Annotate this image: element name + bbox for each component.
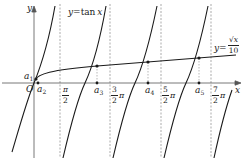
tan-branch-2 [113, 6, 157, 158]
tan-branch-3 [164, 6, 208, 158]
label-a2: a2 [37, 85, 46, 95]
label-a3: a3 [94, 86, 103, 96]
point-a3-top [95, 64, 98, 67]
point-subscript: 5 [200, 89, 204, 96]
y-axis-arrow-icon [32, 6, 36, 12]
sqrt-curve [35, 55, 236, 80]
point-a5-axis [198, 82, 201, 85]
tan-label-prefix: y= [68, 7, 81, 17]
tick-denominator: 2 [62, 96, 69, 105]
sqrt-label-denominator: 10 [228, 46, 239, 55]
sqrt-label-fraction: √x 10 [228, 36, 239, 54]
tick-numerator: 5 [162, 86, 169, 96]
tan-label-var: x [97, 7, 102, 17]
x-axis-label: x [235, 86, 240, 95]
point-a1 [34, 77, 37, 80]
tick-5pi-half: 5 2 [162, 86, 169, 104]
point-a4-top [146, 60, 149, 63]
point-a5-top [197, 56, 200, 59]
origin-label: O [26, 85, 33, 94]
tick-numerator: 3 [111, 86, 118, 96]
tick-7pi-suffix: π [220, 92, 225, 100]
tick-denominator: 2 [162, 96, 169, 105]
label-a5: a5 [195, 86, 204, 96]
label-a4: a4 [145, 86, 154, 96]
diagram-canvas [0, 0, 244, 160]
tan-label-func: tan [81, 7, 96, 17]
tan-branch-1 [63, 6, 106, 158]
point-subscript: 4 [150, 89, 154, 96]
sqrt-label-numerator: √x [228, 36, 239, 46]
tan-sqrt-intersection-diagram: y x O y=tan x y= √x 10 π 2 3 2 π 5 2 π 7… [0, 0, 244, 160]
y-axis-label: y [27, 4, 32, 13]
tick-3pi-half: 3 2 [111, 86, 118, 104]
tick-numerator: 7 [212, 86, 219, 96]
tan-branch-0 [12, 6, 55, 152]
tick-7pi-half: 7 2 [212, 86, 219, 104]
tan-curve-label: y=tan x [68, 8, 102, 17]
point-subscript: 3 [99, 89, 103, 96]
point-a3-axis [96, 82, 99, 85]
point-a4-axis [147, 82, 150, 85]
tick-numerator: π [62, 86, 69, 96]
tick-denominator: 2 [212, 96, 219, 105]
tick-5pi-suffix: π [170, 92, 175, 100]
point-subscript: 1 [29, 75, 33, 82]
tick-3pi-suffix: π [119, 92, 124, 100]
tick-pi-half: π 2 [62, 86, 69, 104]
tick-denominator: 2 [111, 96, 118, 105]
sqrt-label-prefix: y= [214, 44, 227, 53]
label-a1: a1 [24, 72, 33, 82]
point-subscript: 2 [42, 88, 46, 95]
